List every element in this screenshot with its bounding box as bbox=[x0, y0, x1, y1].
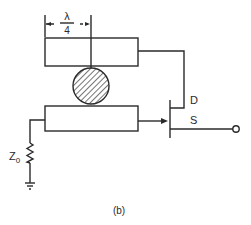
drain-label: D bbox=[190, 94, 198, 106]
resonator-hatching bbox=[70, 65, 112, 107]
dimension-numerator: λ bbox=[64, 10, 70, 22]
quarter-wavelength-dimension: λ 4 bbox=[45, 10, 91, 68]
output-terminal bbox=[233, 126, 239, 132]
drain-wire bbox=[138, 51, 184, 108]
termination-wire-top bbox=[30, 120, 45, 143]
gate-arrowhead bbox=[161, 118, 168, 124]
source-label: S bbox=[190, 114, 197, 126]
dimension-denominator: 4 bbox=[64, 25, 70, 36]
resistor-label-subscript: 0 bbox=[16, 156, 21, 165]
ground-icon bbox=[25, 183, 35, 189]
fet-transistor: D S bbox=[138, 94, 233, 138]
resistor-zigzag bbox=[27, 143, 33, 163]
lower-microstrip-line bbox=[45, 106, 138, 131]
resistor-label: Z0 bbox=[9, 150, 21, 165]
dielectric-resonator bbox=[70, 65, 112, 107]
oscillator-circuit-diagram: λ 4 D S Z0 (b) bbox=[0, 0, 251, 225]
termination-resistor: Z0 bbox=[9, 120, 45, 183]
dimension-left-arrowhead bbox=[46, 22, 51, 26]
dimension-right-arrowhead bbox=[85, 22, 90, 26]
figure-caption: (b) bbox=[113, 205, 125, 216]
